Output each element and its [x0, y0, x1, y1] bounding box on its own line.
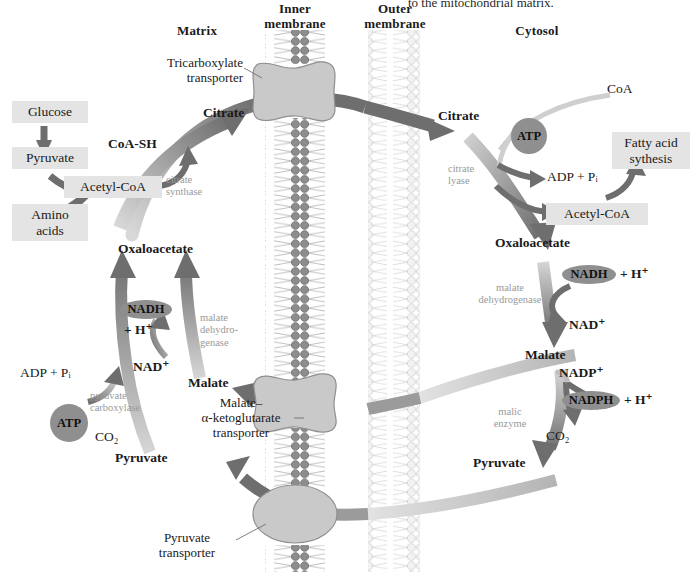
tricarboxylate-transporter-line2: transporter [151, 71, 243, 86]
co2-matrix-label: CO₂ [95, 429, 118, 444]
tricarboxylate-transporter-label: Tricarboxylate transporter [151, 56, 243, 86]
citrate-synthase-label: citrate synthase [166, 174, 202, 199]
inner-membrane-label: Inner membrane [260, 2, 330, 31]
pyruvate-carboxylase-label: pyruvate carboxylase [90, 390, 140, 415]
malate-matrix-label: Malate [188, 375, 228, 390]
malate-cytosol-label: Malate [525, 347, 565, 362]
acetyl-coa-box-cytosol: Acetyl-CoA [546, 203, 648, 225]
outer-membrane-label: Outer membrane [358, 2, 432, 31]
matrix-label: Matrix [163, 24, 231, 39]
cytosol-label: Cytosol [498, 24, 576, 39]
pyruvate-box: Pyruvate [12, 147, 88, 169]
acetyl-coa-box-matrix: Acetyl-CoA [64, 176, 162, 198]
atp-pill-cytosol: ATP [511, 118, 547, 154]
atp-pill-matrix: ATP [50, 404, 88, 442]
citrate-matrix-label: Citrate [203, 105, 244, 120]
pyruvate-matrix-label: Pyruvate [115, 450, 167, 465]
malic-enzyme-line1: malic [484, 406, 536, 418]
co2-cytosol-label: CO₂ [546, 428, 569, 443]
nadp-plus-cytosol-label: NADP⁺ [559, 365, 604, 380]
nadph-h-suffix-cytosol: + H⁺ [624, 392, 653, 407]
citrate-lyase-label: citrate lyase [448, 163, 474, 188]
arrow-malate-to-oaa-matrix [186, 270, 200, 378]
nadh-h-suffix-cytosol: + H⁺ [620, 266, 649, 281]
arrowhead-pyruvate-cytosol [532, 440, 558, 468]
pyruvate-transporter-shape [253, 485, 337, 543]
mdh-matrix-line3: genase [200, 337, 238, 349]
fas-line2: sythesis [619, 151, 683, 167]
malate-akg-transporter-line2: α-ketoglutarate [176, 411, 306, 426]
glucose-box: Glucose [12, 101, 88, 123]
oxaloacetate-cytosol-label: Oxaloacetate [495, 235, 570, 250]
amino-acids-line1: Amino [19, 207, 81, 223]
arrowhead-adp-cytosol [530, 170, 546, 188]
tricarboxylate-transporter-line1: Tricarboxylate [151, 56, 243, 71]
malate-akg-transporter-label: Malate– α-ketoglutarate transporter [176, 396, 306, 441]
nadph-pill-cytosol: NADPH [562, 391, 620, 410]
outer-membrane-line2: membrane [358, 17, 432, 32]
nad-plus-cytosol-label: NAD⁺ [569, 317, 605, 332]
pyruvate-transporter-line2: transporter [137, 546, 237, 561]
mdh-matrix-line1: malate [200, 312, 238, 324]
outer-membrane-line1: Outer [358, 2, 432, 17]
mdh-cytosol-line1: malate [474, 282, 546, 294]
pyruvate-cytosol-label: Pyruvate [473, 455, 525, 470]
pyruvate-carboxylase-line2: carboxylase [90, 402, 140, 414]
citrate-synthase-line1: citrate [166, 174, 202, 186]
adp-pi-matrix-label: ADP + Pᵢ [20, 365, 71, 380]
citrate-lyase-line2: lyase [448, 175, 474, 187]
malate-akg-transporter-line3: transporter [176, 426, 306, 441]
mdh-cytosol-line2: dehydrogenase [474, 294, 546, 306]
pyruvate-transporter-label: Pyruvate transporter [137, 531, 237, 561]
adp-pi-cytosol-label: ADP + Pᵢ [547, 169, 598, 184]
amino-acids-box: Amino acids [12, 204, 88, 241]
inner-membrane-line1: Inner [260, 2, 330, 17]
mdh-matrix-line2: dehydro- [200, 324, 238, 336]
tricarboxylate-transporter-shape [253, 62, 335, 121]
citrate-cytosol-label: Citrate [438, 108, 479, 123]
malate-dehydrogenase-matrix-label: malate dehydro- genase [200, 312, 238, 349]
fatty-acid-synthesis-box: Fatty acid sythesis [612, 132, 690, 169]
coa-cytosol-label: CoA [607, 81, 633, 96]
oxaloacetate-matrix-label: Oxaloacetate [118, 241, 193, 256]
pyruvate-carboxylase-line1: pyruvate [90, 390, 140, 402]
nadh-pill-cytosol: NADH [562, 265, 616, 284]
malic-enzyme-label: malic enzyme [484, 406, 536, 431]
malate-akg-transporter-line1: Malate– [176, 396, 306, 411]
fas-line1: Fatty acid [619, 135, 683, 151]
amino-acids-line2: acids [19, 223, 81, 239]
coa-sh-label: CoA-SH [108, 136, 157, 151]
malate-dehydrogenase-cytosol-label: malate dehydrogenase [474, 282, 546, 307]
nadh-h-suffix-matrix: + H⁺ [124, 322, 153, 337]
nad-plus-matrix-label: NAD⁺ [133, 359, 169, 374]
citrate-lyase-line1: citrate [448, 163, 474, 175]
nadh-pill-matrix: NADH [120, 300, 172, 319]
citrate-synthase-line2: synthase [166, 186, 202, 198]
arrowhead-malate-cytosol [542, 322, 568, 348]
malic-enzyme-line2: enzyme [484, 418, 536, 430]
inner-membrane-line2: membrane [260, 17, 330, 32]
pyruvate-transporter-line1: Pyruvate [137, 531, 237, 546]
